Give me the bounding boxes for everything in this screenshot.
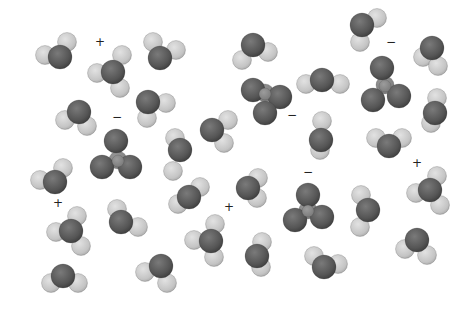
water-molecule bbox=[200, 111, 238, 153]
oxygen-atom bbox=[350, 13, 374, 37]
oxyanion-molecule bbox=[283, 183, 334, 232]
oxygen-atom bbox=[104, 129, 128, 153]
water-molecule bbox=[367, 129, 412, 159]
hydrogen-atom bbox=[164, 162, 183, 181]
oxygen-atom bbox=[245, 244, 269, 268]
oxygen-atom bbox=[90, 155, 114, 179]
oxygen-atom bbox=[356, 198, 380, 222]
hydronium-molecule bbox=[88, 46, 132, 98]
central-atom-face bbox=[112, 155, 124, 167]
oxygen-atom bbox=[59, 219, 83, 243]
hydronium-molecule bbox=[47, 207, 91, 256]
oxygen-atom bbox=[370, 56, 394, 80]
molecule-scene bbox=[0, 0, 474, 315]
positive-charge-label: + bbox=[412, 157, 422, 169]
negative-charge-label: − bbox=[112, 111, 122, 123]
oxygen-atom bbox=[109, 210, 133, 234]
water-molecule bbox=[136, 254, 177, 293]
oxygen-atom bbox=[177, 185, 201, 209]
oxygen-atom bbox=[236, 176, 260, 200]
oxygen-atom bbox=[377, 134, 401, 158]
negative-charge-label: − bbox=[303, 166, 313, 178]
oxygen-atom bbox=[361, 88, 385, 112]
negative-charge-label: − bbox=[386, 36, 396, 48]
central-atom-face bbox=[302, 205, 314, 217]
oxygen-atom bbox=[200, 118, 224, 142]
oxygen-atom bbox=[420, 36, 444, 60]
hydronium-molecule bbox=[185, 215, 225, 267]
oxygen-atom bbox=[423, 101, 447, 125]
water-molecule bbox=[42, 264, 88, 293]
hydronium-molecule bbox=[407, 167, 450, 215]
water-molecule bbox=[396, 228, 437, 265]
oxygen-atom bbox=[67, 100, 91, 124]
oxygen-atom bbox=[241, 33, 265, 57]
water-molecule bbox=[414, 36, 448, 76]
water-molecule bbox=[297, 68, 350, 94]
water-molecule bbox=[351, 186, 381, 237]
positive-charge-label: + bbox=[95, 36, 105, 48]
water-molecule bbox=[56, 100, 97, 136]
oxygen-atom bbox=[418, 178, 442, 202]
water-molecule bbox=[422, 89, 448, 133]
oxygen-atom bbox=[51, 264, 75, 288]
water-molecule bbox=[233, 33, 278, 70]
oxygen-atom bbox=[101, 60, 125, 84]
oxygen-atom bbox=[312, 255, 336, 279]
oxygen-atom bbox=[48, 45, 72, 69]
oxygen-atom bbox=[310, 68, 334, 92]
water-molecule bbox=[108, 200, 148, 237]
oxygen-atom bbox=[199, 229, 223, 253]
water-molecule bbox=[305, 247, 348, 280]
water-molecule bbox=[236, 169, 268, 208]
central-atom-face bbox=[379, 80, 391, 92]
hydrogen-atom bbox=[313, 112, 332, 131]
water-molecule bbox=[31, 159, 73, 195]
oxyanion-molecule bbox=[241, 78, 292, 125]
central-atom-face bbox=[259, 88, 271, 100]
water-molecule bbox=[350, 9, 387, 52]
oxygen-atom bbox=[296, 183, 320, 207]
water-molecule bbox=[169, 178, 210, 214]
water-molecule bbox=[309, 112, 333, 160]
molecule-illustration: +−−−−+++ bbox=[0, 0, 474, 315]
water-molecule bbox=[144, 33, 186, 71]
oxygen-atom bbox=[149, 254, 173, 278]
oxygen-atom bbox=[43, 170, 67, 194]
oxygen-atom bbox=[148, 46, 172, 70]
water-molecule bbox=[136, 90, 176, 128]
water-molecule bbox=[164, 129, 193, 181]
positive-charge-label: + bbox=[53, 197, 63, 209]
water-molecule bbox=[36, 33, 77, 70]
oxyanion-molecule bbox=[90, 129, 142, 179]
water-molecule bbox=[245, 233, 272, 277]
oxygen-atom bbox=[309, 128, 333, 152]
oxyanion-molecule bbox=[361, 56, 411, 112]
oxygen-atom bbox=[168, 138, 192, 162]
oxygen-atom bbox=[405, 228, 429, 252]
negative-charge-label: − bbox=[287, 109, 297, 121]
positive-charge-label: + bbox=[224, 201, 234, 213]
oxygen-atom bbox=[136, 90, 160, 114]
oxygen-atom bbox=[253, 101, 277, 125]
